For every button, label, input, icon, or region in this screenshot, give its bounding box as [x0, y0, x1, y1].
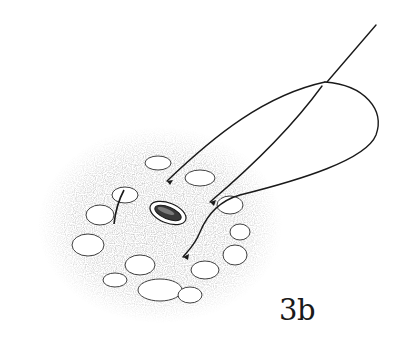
- figure-label: 3b: [279, 293, 315, 327]
- illustration: 3b: [0, 0, 395, 346]
- suture-illustration: [0, 0, 395, 346]
